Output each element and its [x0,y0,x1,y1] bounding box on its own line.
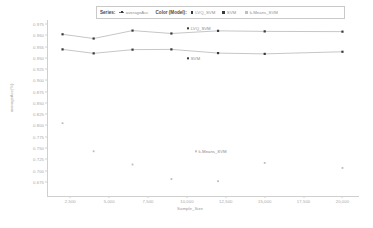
y-tick-mark [45,114,47,115]
x-tick-mark [303,196,304,198]
square-marker-icon [245,11,247,13]
x-tick-label: 15,000 [258,199,271,204]
data-point[interactable] [217,30,219,32]
x-tick-mark [264,196,265,198]
data-point[interactable] [264,162,266,164]
y-tick-mark [45,102,47,103]
y-tick-mark [45,23,47,24]
data-point[interactable] [93,150,95,152]
legend-series-title: Series: [100,10,115,15]
data-point[interactable] [217,52,219,54]
x-tick-label: 10,000 [180,199,193,204]
x-tick-mark [342,196,343,198]
x-tick-label: 17,500 [297,199,310,204]
square-marker-icon [187,57,189,59]
legend-model-label: SVM [227,10,236,15]
data-point[interactable] [61,33,63,35]
series-line-lvq_svm [63,31,343,39]
x-tick-mark [70,196,71,198]
line-marker-icon [119,12,124,13]
series-annotation: LVQ_SVM [187,25,211,30]
series-line-svm [63,49,343,53]
x-tick-label: 7,500 [143,199,154,204]
chart-legend: Series: averageAcc Color (Model): LVQ_SV… [96,6,345,19]
data-point[interactable] [62,122,64,124]
legend-model-kmeans-svm[interactable]: k-Means_SVM [245,10,278,15]
square-marker-icon [222,11,224,13]
y-tick-mark [45,136,47,137]
x-axis-line [47,196,359,197]
data-point[interactable] [264,53,266,55]
chart-root: Series: averageAcc Color (Model): LVQ_SV… [0,0,373,228]
x-tick-mark [225,196,226,198]
series-layer [47,20,358,196]
data-point[interactable] [341,31,343,33]
annotation-label: SVM [191,56,200,61]
x-tick-label: 20,000 [336,199,349,204]
y-tick-mark [45,159,47,160]
legend-color-title: Color (Model): [156,10,187,15]
legend-model-label: k-Means_SVM [250,10,278,15]
legend-model-label: LVQ_SVM [195,10,215,15]
data-point[interactable] [264,30,266,32]
y-tick-mark [45,46,47,47]
y-tick-mark [45,57,47,58]
x-tick-mark [148,196,149,198]
x-tick-mark [186,196,187,198]
x-tick-mark [109,196,110,198]
plot-area: 0.9750.9600.9550.9500.9250.9000.8750.850… [47,20,358,196]
square-marker-icon [195,150,197,152]
data-point[interactable] [342,167,344,169]
data-point[interactable] [217,180,219,182]
y-axis-title: averageAcc(%) [9,84,14,113]
annotation-label: LVQ_SVM [191,26,211,31]
y-tick-mark [45,80,47,81]
x-axis-title: Sample_Size [177,206,203,211]
y-tick-mark [45,148,47,149]
y-tick-mark [45,35,47,36]
x-tick-label: 12,500 [219,199,232,204]
y-tick-mark [45,170,47,171]
legend-series-label: averageAcc [126,10,149,15]
data-point[interactable] [132,164,134,166]
square-marker-icon [191,11,193,13]
y-tick-mark [45,181,47,182]
data-point[interactable] [93,52,95,54]
square-marker-icon [187,27,189,29]
data-point[interactable] [171,178,173,180]
data-point[interactable] [170,32,172,34]
x-tick-label: 5,000 [104,199,115,204]
legend-model-lvq-svm[interactable]: LVQ_SVM [191,10,216,15]
x-tick-label: 2,500 [65,199,76,204]
data-point[interactable] [131,49,133,51]
data-point[interactable] [61,48,63,50]
legend-model-svm[interactable]: SVM [222,10,236,15]
data-point[interactable] [93,37,95,39]
y-tick-mark [45,91,47,92]
data-point[interactable] [170,48,172,50]
data-point[interactable] [341,51,343,53]
data-point[interactable] [131,29,133,31]
annotation-label: k-Means_SVM [199,149,227,154]
legend-series-averageacc[interactable]: averageAcc [119,10,148,15]
series-annotation: k-Means_SVM [195,148,227,153]
y-tick-mark [45,69,47,70]
y-tick-mark [45,125,47,126]
series-annotation: SVM [187,56,200,61]
